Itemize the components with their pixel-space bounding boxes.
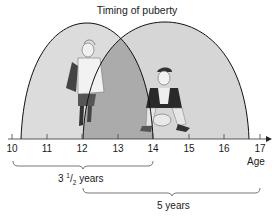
girls-range-label: 3 1/2 years: [58, 172, 104, 186]
bracket-girls-range: [13, 161, 153, 169]
axis-title-age: Age: [247, 156, 265, 167]
tick-label-11: 11: [37, 143, 57, 154]
tick-label-12: 12: [72, 143, 92, 154]
label-numerator: 1: [66, 172, 70, 179]
tick-label-16: 16: [214, 143, 234, 154]
tick-label-14: 14: [143, 143, 163, 154]
axis-arrow-icon: [266, 136, 272, 142]
tick-label-17: 17: [250, 143, 270, 154]
diagram-title: Timing of puberty: [0, 4, 274, 16]
diagram-graphic: [0, 0, 274, 218]
bracket-boys-range: [83, 188, 260, 196]
tick-label-10: 10: [2, 143, 22, 154]
tick-label-13: 13: [108, 143, 128, 154]
boys-range-label: 5 years: [157, 200, 190, 211]
label-denominator: 2: [73, 179, 77, 186]
tick-label-15: 15: [179, 143, 199, 154]
puberty-timing-diagram: Timing of puberty 10 11 12 13 14 15 16 1…: [0, 0, 274, 218]
label-whole: 3: [58, 173, 64, 184]
label-unit: years: [79, 173, 103, 184]
